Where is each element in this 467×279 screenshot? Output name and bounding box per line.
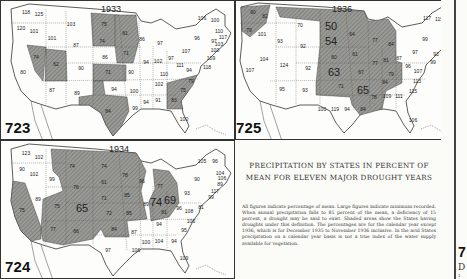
state-value-ut: 62 — [53, 62, 59, 67]
state-value-ar: 87 — [131, 230, 137, 235]
state-value-nj: 100 — [211, 48, 219, 53]
state-value-nm: 93 — [302, 88, 308, 93]
state-value-nc: 113 — [413, 79, 421, 84]
adjacent-small-fragment: 1 — [458, 273, 461, 278]
state-value-md: 118 — [203, 65, 211, 70]
state-value-pa: 107 — [182, 49, 190, 54]
state-value-wa: 123 — [22, 151, 30, 156]
state-value-tx: 84 — [105, 109, 111, 114]
state-value-wy: 76 — [73, 185, 79, 190]
state-value-ne: 60 — [331, 55, 337, 60]
state-value-in: 102 — [154, 59, 162, 64]
state-value-wi: 77 — [372, 38, 378, 43]
state-value-sd: 61 — [101, 180, 107, 185]
state-value-ia: 61 — [352, 52, 358, 57]
state-value-tx: 97 — [105, 248, 111, 253]
state-value-ut: 75 — [54, 204, 60, 209]
state-value-la: 84 — [360, 107, 366, 112]
state-value-mt: 74 — [69, 164, 75, 169]
state-value-nj: 93 — [433, 52, 439, 57]
state-value-de: 99 — [430, 60, 436, 65]
state-value-ny: 90 — [194, 177, 200, 182]
state-value-nd: 75 — [101, 22, 107, 27]
state-value-al: 104 — [155, 239, 163, 244]
state-value-ma: 117 — [219, 35, 227, 40]
plate-number-725: 725 — [236, 119, 262, 136]
state-value-or: 90 — [19, 167, 25, 172]
state-value-il: 77 — [372, 61, 378, 66]
state-value-tn: 84 — [382, 80, 388, 85]
map-panel-1936: 1936 725 9082791019370921041071249295935… — [235, 0, 457, 140]
state-value-ok: 84 — [111, 227, 117, 232]
state-value-co: 65 — [76, 203, 88, 214]
state-value-mi: 97 — [157, 41, 163, 46]
map-year-1934: 1934 — [109, 144, 129, 154]
state-value-tx: 119 — [331, 107, 339, 112]
plate-number-723: 723 — [5, 119, 31, 136]
state-value-wi: 96 — [139, 179, 145, 184]
map-panel-1934: 1934 724 1231029010299747689757565776674… — [0, 140, 235, 279]
adjacent-text-fragment: D — [458, 262, 465, 272]
state-value-ar: 65 — [357, 85, 369, 96]
state-value-nj: 99 — [208, 195, 214, 200]
state-value-la: 106 — [132, 248, 140, 253]
state-value-nm: 66 — [73, 229, 79, 234]
state-value-wv: 111 — [176, 63, 184, 68]
state-value-pa: 93 — [184, 191, 190, 196]
state-value-sd: 74 — [99, 39, 105, 44]
state-value-va: 108 — [185, 209, 193, 214]
state-value-co: 92 — [305, 66, 311, 71]
state-value-sc: 115 — [409, 89, 417, 94]
state-value-ia: 85 — [124, 193, 130, 198]
state-value-az: 87 — [49, 88, 55, 93]
state-value-tn: 102 — [155, 82, 163, 87]
state-value-il: 89 — [143, 202, 149, 207]
state-value-ca: 75 — [19, 208, 25, 213]
state-value-oh: 87 — [396, 56, 402, 61]
state-value-mi: 84 — [388, 42, 394, 47]
state-value-mo: 67 — [358, 70, 364, 75]
state-value-mt: 103 — [67, 22, 75, 27]
state-value-wa-e: 82 — [262, 14, 268, 19]
adjacent-plate-fragment: 7 — [458, 244, 466, 260]
state-value-ks: 63 — [328, 67, 340, 78]
state-value-ok: 71 — [338, 84, 344, 89]
state-value-wa: 90 — [250, 10, 256, 15]
state-value-vt: 105 — [198, 159, 206, 164]
state-value-wa-coast: 125 — [35, 12, 43, 17]
state-value-ms: 100 — [142, 240, 150, 245]
state-value-ny: 96 — [194, 36, 200, 41]
state-value-md: 81 — [198, 205, 204, 210]
state-value-ks: 72 — [106, 211, 112, 216]
state-value-de: 109 — [207, 56, 215, 61]
state-value-or: 79 — [246, 28, 252, 33]
state-value-va: 107 — [414, 69, 422, 74]
state-value-sc: 75 — [180, 88, 186, 93]
state-value-al: 109 — [383, 94, 391, 99]
state-value-ga: 94 — [171, 239, 177, 244]
state-value-ms: 78 — [371, 95, 377, 100]
state-value-wy: 92 — [300, 44, 306, 49]
caption-title: PRECIPITATION BY STATES IN PERCENT OF ME… — [241, 160, 437, 183]
state-value-nd: 50 — [325, 21, 337, 32]
state-value-mn: 64 — [349, 32, 355, 37]
map-year-1933: 1933 — [101, 4, 121, 14]
state-value-ca: 107 — [246, 68, 254, 73]
state-value-ut: 124 — [280, 63, 288, 68]
state-value-ne: 86 — [102, 55, 108, 60]
state-value-fl: 109 — [180, 256, 188, 261]
state-value-az: 95 — [279, 87, 285, 92]
state-value-nv: 104 — [260, 57, 268, 62]
state-value-nc: 79 — [188, 79, 194, 84]
state-value-wv: 96 — [176, 206, 182, 211]
state-value-ar: 100 — [130, 89, 138, 94]
us-map-outline-1933 — [1, 1, 235, 140]
state-value-ky: 79 — [388, 72, 394, 77]
caption-panel: PRECIPITATION BY STATES IN PERCENT OF ME… — [235, 140, 441, 279]
state-value-nd: 74 — [101, 164, 107, 169]
state-value-or: 120 — [17, 26, 25, 31]
state-value-sd: 54 — [325, 36, 337, 47]
state-value-in: 74 — [150, 197, 162, 208]
state-value-mo: 90 — [128, 70, 134, 75]
state-value-or-e: 101 — [258, 32, 266, 37]
